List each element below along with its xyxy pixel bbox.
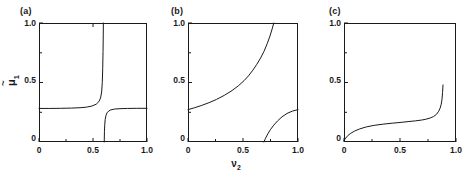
panel-c-curve-upturn bbox=[344, 85, 443, 141]
x-label-subscript: 2 bbox=[237, 164, 241, 171]
panel-c-series-group bbox=[344, 85, 443, 141]
panel-b-xtick-1: 1.0 bbox=[288, 145, 308, 155]
panel-a-xtick-0: 0 bbox=[29, 145, 49, 155]
panel-b: (b) 1.0 0.5 0 0 0.5 1.0 ν2 bbox=[155, 0, 311, 175]
panel-a-series-group bbox=[39, 23, 147, 142]
panel-a-xtick-0.5: 0.5 bbox=[83, 145, 103, 155]
panel-b-series-group bbox=[188, 23, 298, 142]
panel-b-xtick-0.5: 0.5 bbox=[233, 145, 253, 155]
panel-a-xtick-1: 1.0 bbox=[137, 145, 157, 155]
panel-c-xtick-1: 1.0 bbox=[446, 145, 466, 155]
figure-container: (a) ~ μ1 1.0 0.5 0 bbox=[0, 0, 467, 175]
panel-c-xtick-0: 0 bbox=[334, 145, 354, 155]
panel-a: (a) ~ μ1 1.0 0.5 0 bbox=[0, 0, 155, 175]
x-axis-label: ν2 bbox=[223, 158, 249, 171]
panel-b-xtick-0: 0 bbox=[178, 145, 198, 155]
panel-a-curve-upper-branch bbox=[104, 108, 147, 142]
panel-b-curve-main-rising bbox=[188, 23, 274, 110]
panel-a-curve-lower-plateau bbox=[39, 23, 103, 108]
panel-a-curves bbox=[0, 0, 155, 175]
panel-c: (c) 1.0 0.5 0 0 0.5 1.0 bbox=[311, 0, 467, 175]
panel-c-xtick-0.5: 0.5 bbox=[390, 145, 410, 155]
panel-b-curve-lower-right bbox=[264, 110, 298, 142]
